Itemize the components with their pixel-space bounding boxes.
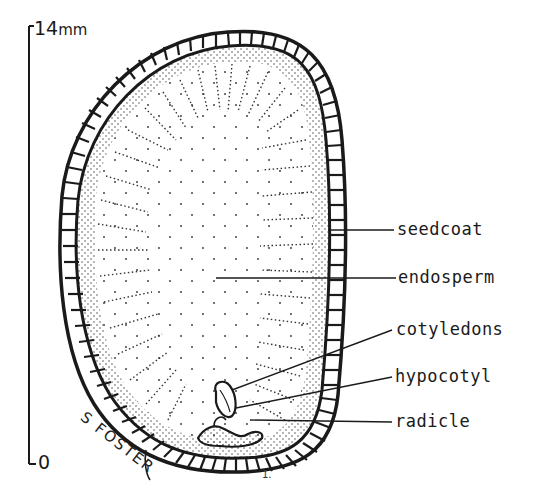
label-seedcoat: seedcoat: [397, 221, 483, 238]
seed-diagram: 1. 14mm 0 seedcoat endosperm cotyledons …: [0, 0, 543, 495]
label-cotyledons: cotyledons: [396, 321, 503, 338]
scale-min-label: 0: [38, 453, 50, 472]
label-radicle: radicle: [395, 413, 470, 430]
label-endosperm: endosperm: [398, 269, 495, 286]
small-mark: 1.: [262, 469, 272, 480]
scale-max-label: 14mm: [34, 19, 87, 38]
scale-unit: mm: [58, 21, 87, 39]
scale-bar: [29, 26, 36, 464]
scale-max-value: 14: [34, 17, 58, 39]
label-hypocotyl: hypocotyl: [395, 368, 492, 385]
